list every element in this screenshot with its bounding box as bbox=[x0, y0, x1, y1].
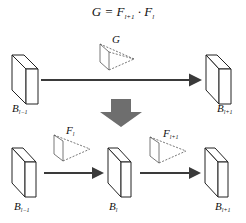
filter-f-l-plus-1-label: Fl+1 bbox=[163, 128, 178, 140]
bottom-block-left-label: Bl−1 bbox=[14, 201, 29, 213]
filter-g bbox=[100, 44, 134, 70]
bottom-block-middle bbox=[108, 148, 131, 197]
filter-f-l bbox=[54, 135, 90, 161]
bottom-block-right-label: Bl+1 bbox=[215, 201, 230, 213]
top-block-left-label: Bl−1 bbox=[12, 103, 27, 115]
filter-g-label: G bbox=[112, 34, 120, 45]
bottom-block-left bbox=[12, 148, 36, 197]
top-block-right bbox=[206, 55, 231, 104]
down-arrow bbox=[100, 99, 142, 127]
top-block-left bbox=[12, 55, 38, 104]
filter-f-l-plus-1 bbox=[150, 137, 186, 163]
top-block-right-label: Bl+1 bbox=[217, 103, 232, 115]
diagram-canvas bbox=[0, 0, 246, 223]
bottom-block-middle-label: Bl bbox=[109, 201, 117, 213]
filter-f-l-label: Fl bbox=[66, 125, 74, 137]
bottom-block-right bbox=[205, 148, 228, 197]
